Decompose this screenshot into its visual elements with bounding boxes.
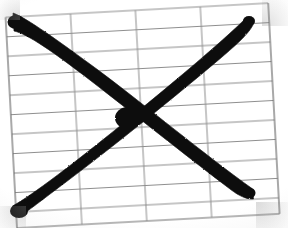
- x-stroke-end-bottom-right: [243, 188, 256, 199]
- x-crossing-center: [115, 107, 141, 129]
- x-stroke-end-top-right: [243, 16, 255, 26]
- grid-with-x-illustration: [0, 0, 288, 228]
- x-stroke-end-bottom-left: [10, 204, 28, 218]
- x-stroke-end-top-left: [8, 15, 25, 29]
- image-canvas: Crossed-out ruled grid table A slightly …: [0, 0, 288, 228]
